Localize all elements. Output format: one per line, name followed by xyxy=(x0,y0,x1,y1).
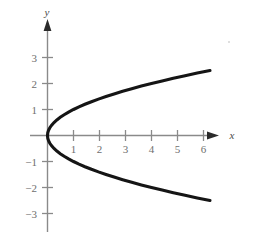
x-tick-label-4: 4 xyxy=(149,143,155,155)
x-axis-label: x xyxy=(229,129,235,141)
y-tick-label-neg3: −3 xyxy=(25,208,37,220)
x-tick-label-5: 5 xyxy=(175,143,181,155)
plot-area: 1 2 3 4 5 6 3 2 1 −1 −2 −3 x y xyxy=(0,0,255,251)
scan-speck xyxy=(228,41,230,43)
y-tick-label-1: 1 xyxy=(32,104,38,116)
parabola-figure: 1 2 3 4 5 6 3 2 1 −1 −2 −3 x y xyxy=(0,0,255,251)
y-tick-label-neg1: −1 xyxy=(25,156,37,168)
y-tick-label-2: 2 xyxy=(32,78,38,90)
y-axis-label: y xyxy=(44,6,50,18)
x-tick-label-1: 1 xyxy=(71,143,77,155)
y-tick-label-3: 3 xyxy=(32,52,38,64)
y-axis-arrow-icon xyxy=(44,19,52,31)
x-tick-label-3: 3 xyxy=(123,143,129,155)
y-tick-label-neg2: −2 xyxy=(25,182,37,194)
x-axis-arrow-icon xyxy=(207,132,219,140)
x-tick-label-6: 6 xyxy=(201,143,207,155)
x-tick-label-2: 2 xyxy=(97,143,103,155)
